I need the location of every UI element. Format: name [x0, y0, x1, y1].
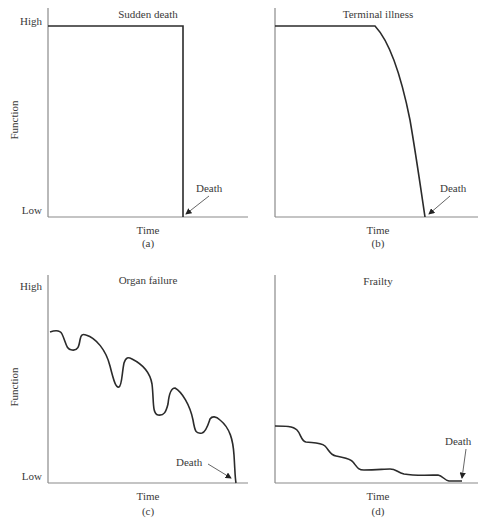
- function-curve: [275, 426, 462, 481]
- panel-b-terminal-illness: Terminal illness Time (b) Death: [275, 8, 478, 250]
- panel-caption: (c): [142, 505, 155, 518]
- y-low-label: Low: [22, 204, 42, 216]
- x-axis-label: Time: [367, 490, 390, 502]
- y-high-label: High: [20, 15, 43, 27]
- panel-a-sudden-death: Sudden death High Low Function Time (a) …: [8, 8, 248, 250]
- function-curve: [50, 331, 236, 483]
- function-curve: [48, 26, 183, 217]
- panel-c-organ-failure: Organ failure High Low Function Time (c)…: [8, 274, 248, 518]
- death-annotation: Death: [176, 456, 203, 468]
- death-annotation: Death: [440, 182, 467, 194]
- panel-caption: (a): [142, 237, 155, 250]
- x-axis-label: Time: [137, 490, 160, 502]
- panel-caption: (b): [372, 237, 385, 250]
- death-arrow-icon: [462, 449, 466, 478]
- death-arrow-icon: [429, 196, 450, 214]
- panel-title: Frailty: [363, 275, 393, 287]
- x-axis-label: Time: [367, 224, 390, 236]
- y-high-label: High: [20, 280, 43, 292]
- death-arrow-icon: [186, 196, 209, 214]
- panel-title: Terminal illness: [343, 8, 413, 20]
- death-annotation: Death: [196, 182, 223, 194]
- panel-d-frailty: Frailty Time (d) Death: [275, 275, 478, 518]
- figure-canvas: Sudden death High Low Function Time (a) …: [0, 0, 489, 525]
- y-axis-label: Function: [8, 367, 20, 407]
- death-arrow-icon: [208, 464, 231, 478]
- panel-caption: (d): [372, 505, 385, 518]
- death-annotation: Death: [445, 435, 472, 447]
- y-axis-label: Function: [8, 100, 20, 140]
- panel-title: Organ failure: [119, 274, 178, 286]
- function-curve: [275, 26, 425, 217]
- panel-title: Sudden death: [118, 8, 178, 20]
- y-low-label: Low: [22, 470, 42, 482]
- x-axis-label: Time: [137, 224, 160, 236]
